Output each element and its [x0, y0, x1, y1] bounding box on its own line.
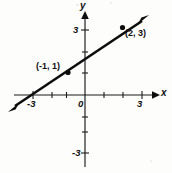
- point-label-a: (-1, 1): [36, 62, 60, 71]
- x-axis-label: x: [161, 88, 167, 98]
- point-marker-a: [65, 70, 70, 75]
- y-axis-label: y: [80, 1, 86, 11]
- coordinate-plane-figure: y x 3 -3 -3 0 3 (-1, 1) (2, 3): [0, 0, 172, 173]
- x-tick-label-negative-3: -3: [27, 99, 35, 109]
- graph-canvas: [0, 0, 172, 173]
- point-label-b: (2, 3): [125, 29, 146, 38]
- x-tick-label-positive-3: 3: [137, 99, 142, 109]
- y-tick-label-positive-3: 3: [73, 25, 78, 35]
- line-arrowhead-lower-left-icon: [8, 103, 20, 113]
- y-axis: [81, 11, 89, 167]
- x-axis-arrowhead-icon: [152, 91, 160, 99]
- y-tick-label-negative-3: -3: [72, 148, 80, 158]
- y-axis-arrowhead-icon: [81, 11, 89, 19]
- origin-label: 0: [78, 99, 83, 109]
